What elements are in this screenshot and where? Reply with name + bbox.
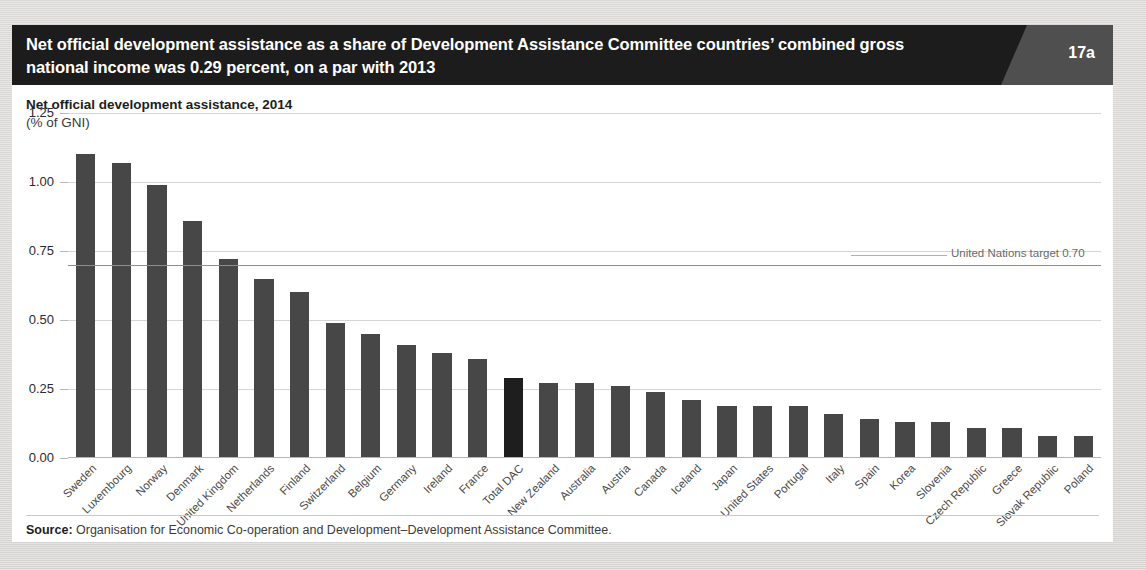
gridline <box>68 251 1101 252</box>
y-axis-tick <box>60 389 68 390</box>
bar <box>611 386 630 458</box>
bar <box>575 383 594 458</box>
x-axis-label: Iceland <box>669 462 704 497</box>
x-axis-baseline <box>68 457 1101 459</box>
x-axis-label: France <box>456 462 490 496</box>
bar <box>1038 436 1057 458</box>
x-axis-label: United Kingdom <box>174 462 240 528</box>
y-axis-label: 1.00 <box>0 174 54 189</box>
chart-subtitle-primary: Net official development assistance, 201… <box>26 97 292 112</box>
x-axis-label: Finland <box>277 462 312 497</box>
bar <box>112 163 131 458</box>
source-label: Source: <box>26 523 73 537</box>
bar <box>789 406 808 458</box>
source-note: Source: Organisation for Economic Co-ope… <box>26 523 612 537</box>
x-axis-label: Korea <box>887 462 917 492</box>
x-axis-label: Japan <box>709 462 740 493</box>
bar <box>717 406 736 458</box>
y-axis-tick <box>60 113 68 114</box>
plot-area: 0.000.250.500.751.001.25 United Nations … <box>68 113 1101 458</box>
x-axis-label: Austria <box>599 462 633 496</box>
figure-header: Net official development assistance as a… <box>12 25 1113 85</box>
x-axis-label: Greece <box>989 462 1024 497</box>
bar <box>432 353 451 458</box>
y-axis-label: 0.00 <box>0 450 54 465</box>
y-axis-tick <box>60 320 68 321</box>
bar <box>967 428 986 458</box>
bar <box>326 323 345 458</box>
x-axis-label: Canada <box>631 462 668 499</box>
x-axis-label: Australia <box>557 462 597 502</box>
bar <box>468 359 487 458</box>
figure-number-label: 17a <box>1068 44 1095 62</box>
figure-title: Net official development assistance as a… <box>26 33 966 79</box>
y-axis-tick <box>60 182 68 183</box>
x-axis-label: Spain <box>853 462 882 491</box>
y-axis-label: 0.25 <box>0 381 54 396</box>
gridline <box>68 113 1101 114</box>
y-axis-label: 0.75 <box>0 243 54 258</box>
bar <box>895 422 914 458</box>
un-target-reference-line <box>68 265 1101 267</box>
y-axis-label: 0.50 <box>0 312 54 327</box>
x-axis-label: Czech Republic <box>923 462 988 527</box>
bar <box>147 185 166 458</box>
bar <box>539 383 558 458</box>
chart-body: Net official development assistance, 201… <box>12 85 1113 542</box>
x-axis-label: Norway <box>133 462 169 498</box>
x-axis-label: Slovak Republic <box>993 462 1060 529</box>
y-axis-label: 1.25 <box>0 105 54 120</box>
bar <box>646 392 665 458</box>
bar <box>860 419 879 458</box>
y-axis-tick <box>60 458 68 459</box>
bar <box>219 259 238 458</box>
gridline <box>68 182 1101 183</box>
x-axis-label: Ireland <box>421 462 454 495</box>
x-axis-label: Portugal <box>772 462 811 501</box>
bar <box>1074 436 1093 458</box>
bar <box>361 334 380 458</box>
source-text: Organisation for Economic Co-operation a… <box>73 523 612 537</box>
bar <box>682 400 701 458</box>
figure-panel: Net official development assistance as a… <box>12 25 1113 542</box>
bar <box>290 292 309 458</box>
bar <box>397 345 416 458</box>
bar <box>504 378 523 458</box>
bar <box>183 221 202 458</box>
figure-number-badge: 17a <box>1001 25 1113 85</box>
x-axis-label: Italy <box>823 462 846 485</box>
un-target-label: United Nations target 0.70 <box>951 247 1085 259</box>
bar <box>1002 428 1021 458</box>
un-target-leader-line <box>851 255 947 256</box>
x-axis-label: Germany <box>377 462 419 504</box>
bar <box>254 279 273 458</box>
y-axis-tick <box>60 251 68 252</box>
bar <box>824 414 843 458</box>
bar <box>76 154 95 458</box>
x-axis-label: Poland <box>1062 462 1096 496</box>
source-divider <box>26 515 1099 516</box>
bar <box>931 422 950 458</box>
bar <box>753 406 772 458</box>
